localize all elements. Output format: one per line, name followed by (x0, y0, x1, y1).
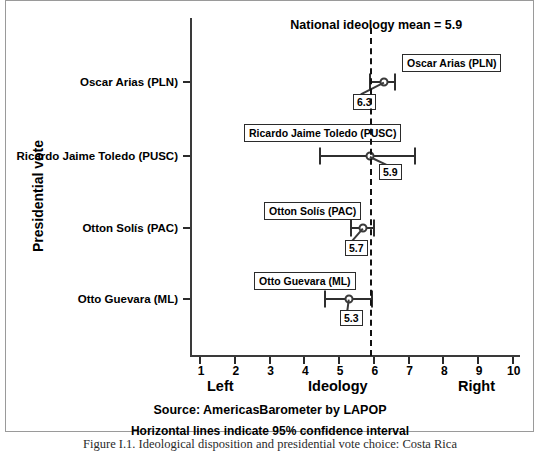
confidence-interval-cap (324, 291, 326, 308)
y-axis-tick (183, 298, 190, 300)
x-axis-right-label: Right (458, 378, 495, 394)
x-axis-tick (408, 357, 410, 364)
x-axis-tick-label: 6 (360, 364, 390, 378)
data-point-value-box: 5.7 (345, 240, 368, 256)
x-axis-tick-label: 3 (256, 364, 286, 378)
x-axis-tick (442, 357, 444, 364)
x-axis-title: Ideology (308, 378, 368, 394)
y-axis-tick (183, 227, 190, 229)
y-axis-category-label: Oscar Arias (PLN) (80, 76, 178, 88)
y-axis-category-label: Otton Solís (PAC) (82, 222, 178, 234)
data-point-value-box: 5.9 (379, 164, 402, 180)
y-axis-title: Presidential vote (30, 96, 46, 296)
x-axis-tick (338, 357, 340, 364)
y-axis-tick (183, 155, 190, 157)
x-axis-tick (477, 357, 479, 364)
figure-caption: Figure I.1. Ideological disposition and … (0, 437, 540, 452)
x-axis-tick-label: 2 (221, 364, 251, 378)
x-axis-tick-label: 4 (290, 364, 320, 378)
data-point-name-box: Otto Guevara (ML) (254, 272, 356, 290)
confidence-interval-cap (373, 220, 375, 237)
y-axis-tick (183, 81, 190, 83)
x-axis-left-label: Left (207, 378, 234, 394)
x-axis-tick (512, 357, 514, 364)
x-axis-tick (373, 357, 375, 364)
x-axis-tick (199, 357, 201, 364)
x-axis-tick-label: 8 (429, 364, 459, 378)
data-point-name-box: Otton Solís (PAC) (264, 202, 361, 220)
confidence-interval-note: Horizontal lines indicate 95% confidence… (0, 424, 540, 438)
confidence-interval-cap (394, 74, 396, 91)
y-axis-category-label: Otto Guevara (ML) (78, 293, 178, 305)
data-point-value-box: 5.3 (340, 310, 363, 326)
data-point-name-box: Ricardo Jaime Toledo (PUSC) (244, 124, 401, 142)
x-axis-tick (269, 357, 271, 364)
reference-line (370, 28, 372, 356)
x-axis-tick-label: 10 (499, 364, 529, 378)
confidence-interval-cap (350, 220, 352, 237)
x-axis-tick (303, 357, 305, 364)
x-axis-tick (234, 357, 236, 364)
x-axis-line (190, 355, 520, 357)
reference-line-label: National ideology mean = 5.9 (290, 18, 462, 32)
y-axis-line (190, 18, 192, 356)
data-point-name-box: Oscar Arias (PLN) (402, 54, 501, 72)
x-axis-tick-label: 5 (325, 364, 355, 378)
confidence-interval-cap (414, 148, 416, 165)
confidence-interval-cap (319, 148, 321, 165)
source-note: Source: AmericasBarometer by LAPOP (0, 403, 540, 417)
x-axis-tick-label: 9 (464, 364, 494, 378)
x-axis-tick-label: 7 (395, 364, 425, 378)
x-axis-tick-label: 1 (186, 364, 216, 378)
